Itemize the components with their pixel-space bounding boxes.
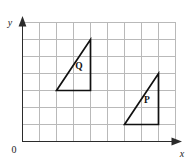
coordinate-grid-figure: y x 0 Q P <box>0 0 196 162</box>
origin-label: 0 <box>12 144 17 155</box>
y-axis-label: y <box>7 17 13 28</box>
x-axis-label: x <box>179 148 185 159</box>
shape-label-q: Q <box>75 61 82 71</box>
shape-label-p: P <box>144 95 150 105</box>
text-layer: y x 0 Q P <box>0 0 196 162</box>
